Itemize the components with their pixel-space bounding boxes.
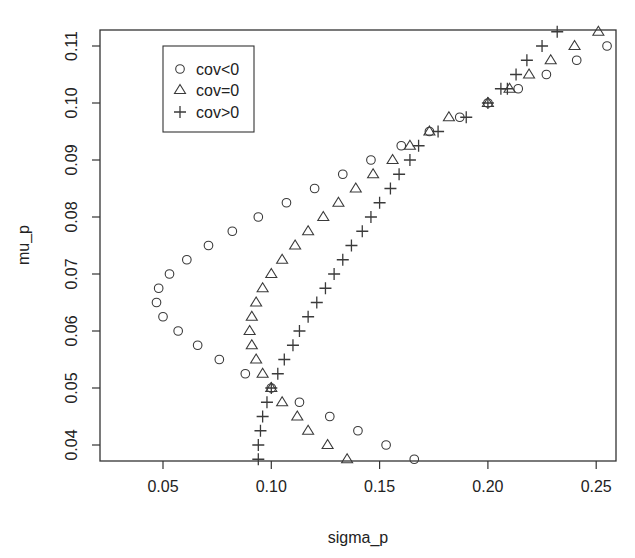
data-point bbox=[325, 412, 334, 421]
y-tick-label: 0.06 bbox=[63, 315, 80, 346]
data-point bbox=[393, 168, 405, 180]
data-point bbox=[345, 240, 357, 252]
scatter-plot: 0.050.100.150.200.25 0.040.050.060.070.0… bbox=[0, 0, 635, 558]
series-triangle bbox=[244, 26, 604, 463]
data-point bbox=[482, 97, 494, 109]
data-point bbox=[536, 40, 548, 52]
data-point bbox=[292, 411, 303, 420]
data-point bbox=[410, 455, 419, 464]
data-point bbox=[290, 240, 301, 249]
data-point bbox=[374, 197, 386, 209]
data-point bbox=[603, 42, 612, 51]
x-tick-label: 0.05 bbox=[147, 478, 178, 495]
data-point bbox=[241, 369, 250, 378]
y-tick-label: 0.11 bbox=[63, 31, 80, 61]
data-point bbox=[333, 197, 344, 206]
data-point bbox=[501, 83, 513, 95]
x-axis-label: sigma_p bbox=[328, 529, 389, 547]
data-point bbox=[174, 327, 183, 336]
legend-label: cov>0 bbox=[196, 104, 239, 121]
data-point bbox=[338, 170, 347, 179]
data-point bbox=[303, 425, 314, 434]
data-point bbox=[322, 440, 333, 449]
data-point bbox=[257, 368, 268, 377]
data-point bbox=[432, 126, 444, 138]
data-point bbox=[365, 211, 377, 223]
data-point bbox=[193, 341, 202, 350]
data-point bbox=[593, 26, 604, 35]
data-point bbox=[545, 55, 556, 64]
y-tick-label: 0.09 bbox=[63, 144, 80, 175]
data-point bbox=[152, 298, 161, 307]
data-point bbox=[251, 354, 262, 363]
data-point bbox=[278, 354, 290, 366]
y-axis: 0.040.050.060.070.080.090.100.11 bbox=[63, 31, 100, 461]
y-tick-label: 0.08 bbox=[63, 201, 80, 232]
data-point bbox=[295, 398, 304, 407]
data-point bbox=[303, 226, 314, 235]
x-tick-label: 0.15 bbox=[364, 478, 395, 495]
data-point bbox=[367, 156, 376, 165]
data-point bbox=[254, 425, 266, 437]
data-point bbox=[272, 368, 284, 380]
data-point bbox=[257, 411, 269, 423]
data-point bbox=[382, 441, 391, 450]
data-point bbox=[319, 282, 331, 294]
data-point bbox=[251, 297, 262, 306]
data-point bbox=[404, 154, 416, 166]
data-point bbox=[521, 54, 533, 66]
data-point bbox=[504, 83, 515, 92]
y-tick-label: 0.07 bbox=[63, 258, 80, 289]
data-point bbox=[277, 397, 288, 406]
data-point bbox=[387, 155, 398, 164]
data-point bbox=[159, 312, 168, 321]
data-point bbox=[228, 227, 237, 236]
y-tick-label: 0.04 bbox=[63, 429, 80, 460]
data-point bbox=[337, 254, 349, 266]
data-point bbox=[282, 198, 291, 207]
data-point bbox=[287, 339, 299, 351]
data-point bbox=[215, 355, 224, 364]
data-point bbox=[261, 396, 273, 408]
y-axis-label: mu_p bbox=[15, 225, 33, 265]
data-point bbox=[254, 213, 263, 222]
legend: cov<0 cov=0 cov>0 bbox=[163, 46, 254, 132]
y-tick-label: 0.10 bbox=[63, 87, 80, 118]
data-point bbox=[293, 325, 305, 337]
data-point bbox=[154, 284, 163, 293]
x-tick-label: 0.20 bbox=[472, 478, 503, 495]
data-point bbox=[310, 184, 319, 193]
data-point bbox=[311, 297, 323, 309]
data-point bbox=[318, 212, 329, 221]
data-point bbox=[356, 225, 368, 237]
data-point bbox=[302, 311, 314, 323]
x-axis: 0.050.100.150.200.25 bbox=[147, 461, 611, 495]
data-point bbox=[183, 255, 192, 264]
legend-label: cov=0 bbox=[196, 82, 239, 99]
x-tick-label: 0.10 bbox=[256, 478, 287, 495]
data-point bbox=[165, 270, 174, 279]
data-point bbox=[246, 311, 257, 320]
data-point bbox=[277, 254, 288, 263]
data-point bbox=[404, 140, 415, 149]
data-point bbox=[252, 453, 264, 465]
data-point bbox=[265, 382, 277, 394]
data-point bbox=[443, 112, 454, 121]
data-point bbox=[266, 269, 277, 278]
data-point bbox=[204, 241, 213, 250]
data-point bbox=[413, 140, 425, 152]
data-point bbox=[510, 69, 522, 81]
legend-label: cov<0 bbox=[196, 61, 239, 78]
data-point bbox=[252, 439, 264, 451]
data-point bbox=[572, 56, 581, 65]
data-point bbox=[246, 340, 257, 349]
data-point bbox=[524, 69, 535, 78]
data-point bbox=[569, 41, 580, 50]
data-point bbox=[244, 326, 255, 335]
data-point bbox=[368, 169, 379, 178]
data-point bbox=[257, 283, 268, 292]
data-point bbox=[328, 268, 340, 280]
data-point bbox=[354, 426, 363, 435]
data-point bbox=[542, 70, 551, 79]
data-point bbox=[551, 26, 563, 38]
